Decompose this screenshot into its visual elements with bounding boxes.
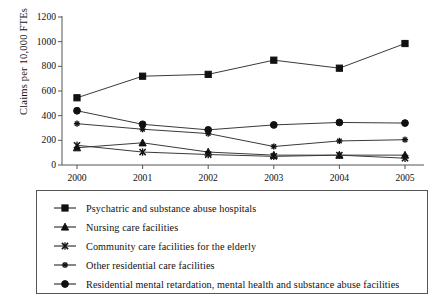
x-tick-label: 2002	[188, 172, 228, 183]
legend-marker-icon	[51, 218, 81, 236]
series-3	[74, 121, 408, 150]
series-0	[74, 40, 408, 100]
x-tick-label: 2000	[57, 172, 97, 183]
legend-marker-icon	[51, 237, 81, 255]
y-tick-label: 400	[22, 110, 56, 121]
chart-legend: Psychatric and substance abuse hospitals…	[36, 190, 428, 294]
figure-container: Claims per 10,000 FTEs 02004006008001000…	[0, 0, 438, 302]
legend-marker-icon	[51, 256, 81, 274]
y-tick-label: 600	[22, 85, 56, 96]
y-tick-label: 0	[22, 159, 56, 170]
legend-item-label: Psychatric and substance abuse hospitals	[81, 203, 256, 214]
legend-item: Psychatric and substance abuse hospitals	[51, 199, 256, 217]
legend-item: Community care facilities for the elderl…	[51, 237, 256, 255]
legend-marker-icon	[51, 199, 81, 217]
legend-item-label: Residential mental retardation, mental h…	[81, 279, 399, 290]
plot-area: Claims per 10,000 FTEs 02004006008001000…	[0, 0, 438, 182]
series-4	[74, 107, 409, 133]
x-tick-label: 2005	[385, 172, 425, 183]
legend-item: Residential mental retardation, mental h…	[51, 275, 399, 293]
legend-item-label: Nursing care facilities	[81, 222, 178, 233]
legend-item-label: Other residential care facilities	[81, 260, 215, 271]
legend-item: Other residential care facilities	[51, 256, 215, 274]
chart-axes	[58, 16, 424, 169]
y-tick-label: 800	[22, 60, 56, 71]
legend-marker-icon	[51, 275, 81, 293]
y-tick-label: 1000	[22, 36, 56, 47]
y-tick-label: 200	[22, 134, 56, 145]
x-tick-label: 2004	[319, 172, 359, 183]
line-chart	[0, 0, 438, 182]
x-tick-label: 2001	[123, 172, 163, 183]
legend-item-label: Community care facilities for the elderl…	[81, 241, 256, 252]
chart-series	[73, 40, 408, 162]
y-tick-label: 1200	[22, 11, 56, 22]
legend-item: Nursing care facilities	[51, 218, 178, 236]
x-tick-label: 2003	[254, 172, 294, 183]
